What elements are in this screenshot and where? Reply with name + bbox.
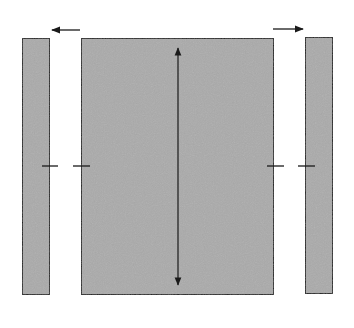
diagram-canvas <box>0 0 354 328</box>
